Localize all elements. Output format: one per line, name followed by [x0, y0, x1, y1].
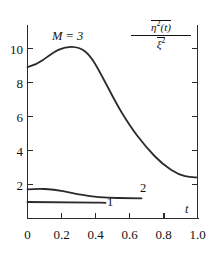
y-tick-label-6: 6	[1, 111, 23, 124]
x-tick-label-1-0: 1.0	[184, 228, 211, 241]
y-ticks-right	[192, 49, 198, 185]
curve-m3	[28, 47, 197, 177]
curve-1	[28, 202, 106, 203]
chart-figure: 10 8 6 4 2 0 0.2 0.4 0.6 0.8 1.0 t η2(t)…	[0, 0, 211, 257]
x-ticks	[62, 213, 164, 219]
x-tick-label-0-8: 0.8	[150, 228, 177, 241]
x-tick-label-0: 0	[14, 228, 41, 241]
x-tick-label-0-4: 0.4	[82, 228, 109, 241]
curve-label-2: 2	[140, 182, 146, 195]
y-tick-label-8: 8	[1, 77, 23, 90]
x-axis-title: t	[185, 202, 188, 217]
curve-2	[28, 189, 142, 198]
curve-label-m3: M = 3	[52, 30, 83, 43]
curve-label-1: 1	[107, 196, 113, 209]
y-ticks	[28, 49, 34, 185]
y-tick-label-10: 10	[1, 43, 23, 56]
y-axis-title: η2(t) ξ2	[131, 20, 191, 50]
y-axis-title-denominator: ξ2	[131, 36, 191, 51]
y-tick-label-4: 4	[1, 145, 23, 158]
y-tick-label-2: 2	[1, 179, 23, 192]
eta-argument: (t)	[161, 21, 171, 33]
xi-exponent: 2	[161, 36, 165, 45]
x-tick-label-0-2: 0.2	[48, 228, 75, 241]
x-tick-label-0-6: 0.6	[116, 228, 143, 241]
y-axis-title-numerator: η2(t)	[131, 20, 191, 36]
